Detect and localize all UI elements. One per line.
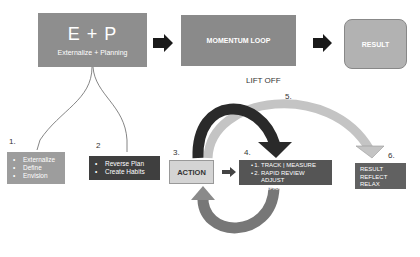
step-6-number: 6. xyxy=(388,151,395,160)
result-label: RESULT xyxy=(362,41,389,48)
step-1-item: Envision xyxy=(23,172,59,180)
step-4-item: REFRAME FAILURE xyxy=(261,185,324,193)
ep-title: E + P xyxy=(68,24,118,45)
step-4-item: RAPID REVIEW ADJUST xyxy=(261,170,324,185)
step-4-number: 4. xyxy=(244,148,251,157)
step-1-number: 1. xyxy=(9,137,16,146)
step-2-item: Reverse Plan xyxy=(105,160,154,168)
momentum-loop-label: MOMENTUM LOOP xyxy=(207,37,271,44)
step-4-item: TRACK | MEASURE xyxy=(261,162,324,170)
step-5-number: 5. xyxy=(285,92,292,101)
step-2-box: Reverse Plan Create Habits xyxy=(89,156,160,180)
momentum-loop-box: MOMENTUM LOOP xyxy=(181,15,296,66)
step-6-item: RELAX xyxy=(360,181,401,189)
lift-off-label: LIFT OFF xyxy=(246,76,281,85)
action-label: ACTION xyxy=(177,168,206,177)
action-box: ACTION xyxy=(169,160,214,184)
ep-subtitle: Externalize + Planning xyxy=(58,49,128,56)
step-6-item: REFLECT xyxy=(360,174,401,182)
externalize-planning-box: E + P Externalize + Planning xyxy=(38,13,147,67)
step-4-box: TRACK | MEASURE RAPID REVIEW ADJUST REFR… xyxy=(239,160,332,185)
step-1-item: Externalize xyxy=(23,156,59,164)
step-6-item: RESULT xyxy=(360,166,401,174)
step-2-number: 2 xyxy=(96,141,100,150)
arrow-right-icon xyxy=(313,34,332,52)
result-box: RESULT xyxy=(344,19,407,69)
step-3-number: 3. xyxy=(173,148,180,157)
step-1-box: Externalize Define Envision xyxy=(7,152,65,184)
step-6-box: RESULT REFLECT RELAX xyxy=(355,163,406,189)
step-1-item: Define xyxy=(23,164,59,172)
step-2-item: Create Habits xyxy=(105,168,154,176)
arrow-right-icon xyxy=(153,34,173,52)
